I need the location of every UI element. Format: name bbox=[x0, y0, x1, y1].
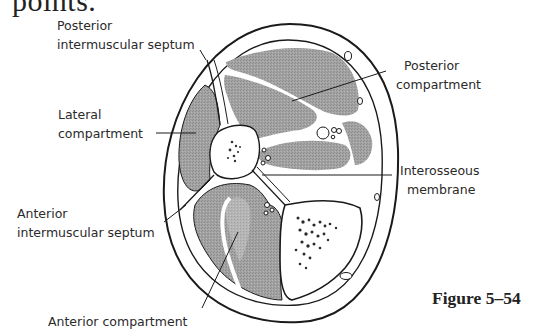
leader-posterior-septum bbox=[200, 50, 206, 60]
label-posterior-compartment: Posterior compartment bbox=[396, 56, 481, 94]
label-anterior-compartment: Anterior compartment bbox=[48, 312, 187, 331]
label-posterior-intermuscular-septum: Posterior intermuscular septum bbox=[57, 16, 195, 54]
label-lateral-compartment: Lateral compartment bbox=[58, 105, 143, 143]
figure-caption: Figure 5–54 bbox=[432, 288, 521, 309]
label-anterior-intermuscular-septum: Anterior intermuscular septum bbox=[17, 204, 155, 242]
label-interosseous-membrane: Interosseous membrane bbox=[400, 161, 480, 199]
